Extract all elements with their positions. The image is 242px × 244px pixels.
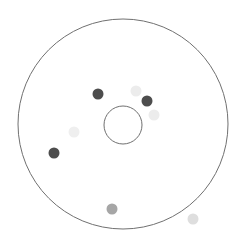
data-dot (131, 86, 142, 97)
data-dot (149, 110, 160, 121)
data-dot (188, 214, 199, 225)
data-dot (49, 148, 60, 159)
data-dot (69, 127, 80, 138)
data-dot (142, 96, 153, 107)
inner-ring (104, 106, 142, 144)
outer-ring (18, 19, 228, 229)
data-dot (93, 89, 104, 100)
radial-dot-diagram (0, 0, 242, 244)
data-dot (107, 204, 118, 215)
